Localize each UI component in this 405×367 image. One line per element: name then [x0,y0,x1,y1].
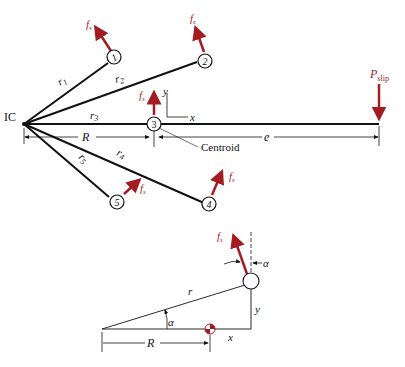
r2-label: r2 [113,71,125,87]
top-diagram: IC r1 r2 r3 r4 r5 fs 1 fs 2 fs 3 y x fs … [4,12,389,211]
force-arrow-bolt-4 [212,176,220,195]
force-arrow-bolt-5 [124,183,136,194]
dim-e-label: e [264,130,270,144]
ic-point [22,122,26,126]
y-label: y [254,303,260,315]
axis-x-label: x [189,111,195,123]
bottom-diagram: fs α α r y x R [102,230,269,352]
radius-line-r4 [24,124,204,203]
force-arrow-bolt-2 [197,32,204,52]
radius-line-r2 [24,62,197,124]
radius-line-r5 [24,124,109,197]
ic-label: IC [4,110,16,124]
bolt [243,273,259,289]
alpha-top-label: α [263,257,269,269]
force-label-bolt-1: fs [86,18,92,32]
bolt-2-number: 2 [203,56,208,67]
alpha-angle-label: α [168,316,174,328]
alpha-angle-arc-left [224,261,240,264]
bolt-4-number: 4 [207,199,212,210]
r4-label: r4 [114,146,127,162]
r1-label: r1 [55,73,69,89]
force-label-bolt-5: fs [140,182,146,196]
force-label-bolt-4: fs [229,170,235,184]
dim-R-label: R [146,336,155,350]
bolt-5-number: 5 [115,197,120,208]
centroid-leader [159,128,198,147]
centroid-symbol [205,324,215,334]
force-label-bolt-2: fs [190,12,196,26]
x-label: x [227,331,233,343]
r3-label: r3 [90,109,98,123]
instantaneous-center-diagram: IC r1 r2 r3 r4 r5 fs 1 fs 2 fs 3 y x fs … [0,0,405,367]
alpha-angle-arc [165,310,167,329]
r-label: r [188,285,193,297]
force-label: fs [217,230,223,244]
bolt-3-number: 3 [152,119,157,130]
centroid-label: Centroid [201,141,240,153]
dim-R-label: R [81,130,90,144]
force-label-bolt-3: fs [139,89,145,103]
force-arrow-bolt-1 [98,31,111,51]
load-label-p-slip: Pslip [369,67,389,83]
local-axes [167,93,188,117]
force-arrow [235,240,247,274]
axis-y-label: y [162,85,168,97]
